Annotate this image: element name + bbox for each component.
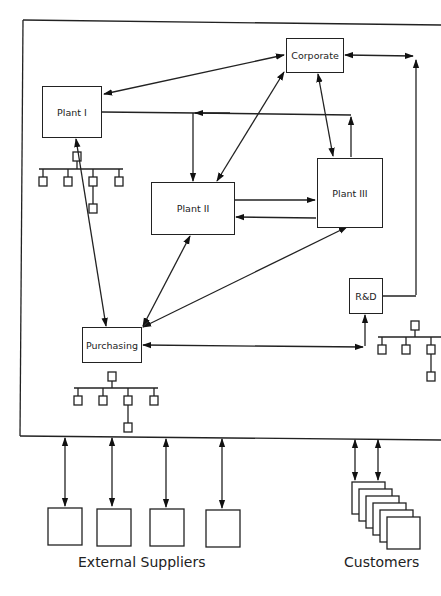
- edge-plant2-purchasing: [143, 236, 190, 326]
- supplier-box-3: [150, 509, 184, 546]
- edge-plant3-plant2: [236, 217, 316, 218]
- external-suppliers-caption: External Suppliers: [78, 554, 206, 570]
- plant3-label: Plant III: [332, 188, 367, 199]
- purchasing-network: [74, 372, 158, 432]
- corporate-box: Corporate: [286, 38, 344, 73]
- supplier-box-2: [97, 509, 131, 546]
- edge-plant3-purchasing: [143, 227, 347, 327]
- edge-corporate-plant2: [217, 72, 284, 181]
- rnd-box: R&D: [349, 278, 383, 314]
- rnd-label: R&D: [355, 291, 376, 302]
- plant3-box: Plant III: [317, 158, 383, 228]
- edge-corporate-plant1: [104, 55, 284, 94]
- plant1-network: [39, 152, 123, 213]
- supplier-box-1: [48, 508, 82, 545]
- rnd-network: [378, 321, 441, 381]
- customers-caption: Customers: [344, 554, 419, 570]
- plant2-label: Plant II: [177, 203, 210, 214]
- corporate-label: Corporate: [291, 50, 339, 61]
- customer-stack: [352, 482, 420, 549]
- plant1-label: Plant I: [57, 107, 87, 118]
- edge-corporate-right: [345, 55, 413, 56]
- supplier-box-4: [206, 510, 240, 547]
- edge-purchasing-rnd: [143, 345, 363, 347]
- edge-plant1-purchasing: [76, 139, 106, 326]
- purchasing-label: Purchasing: [86, 340, 138, 351]
- purchasing-box: Purchasing: [82, 327, 142, 363]
- plant1-box: Plant I: [42, 86, 102, 138]
- plant2-box: Plant II: [151, 182, 235, 235]
